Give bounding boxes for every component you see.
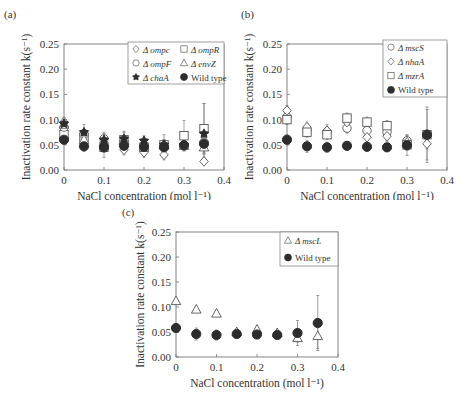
y-tick-label: 0.20 xyxy=(263,63,283,75)
y-tick-label: 0.00 xyxy=(40,164,60,176)
data-marker xyxy=(313,318,322,327)
data-marker xyxy=(422,130,431,139)
data-marker xyxy=(199,139,208,148)
data-marker xyxy=(302,142,311,151)
y-tick-label: 0.05 xyxy=(40,139,60,151)
y-axis-label: Inactivation rate constant k(s⁻¹) xyxy=(134,221,147,368)
y-tick-label: 0.05 xyxy=(152,326,172,338)
panel-label: (c) xyxy=(122,206,135,219)
panel-c: (c)0.000.050.100.150.200.2500.10.20.30.4… xyxy=(120,200,360,406)
legend-label: Wild type xyxy=(398,85,433,95)
y-axis-label: Inactivation rate constant k(s⁻¹) xyxy=(20,34,33,181)
data-points xyxy=(171,296,322,351)
x-tick-label: 0.3 xyxy=(400,174,414,186)
data-marker xyxy=(283,115,291,123)
legend-label: Δ envZ xyxy=(190,59,217,69)
data-marker xyxy=(180,132,188,140)
chart-panel-c: (c)0.000.050.100.150.200.2500.10.20.30.4… xyxy=(120,200,360,406)
data-marker xyxy=(382,143,391,152)
data-marker xyxy=(303,128,311,136)
y-tick-label: 0.00 xyxy=(263,164,283,176)
x-tick-label: 0.1 xyxy=(320,174,334,186)
legend-label: Δ mzrA xyxy=(397,71,425,81)
legend: Δ mscSΔ nhaAΔ mzrAWild type xyxy=(383,40,447,97)
legend-label: Δ chaA xyxy=(142,73,169,83)
data-marker xyxy=(192,329,201,338)
data-marker xyxy=(313,331,323,340)
y-tick-label: 0.20 xyxy=(40,63,60,75)
data-marker xyxy=(79,142,88,151)
panel-b: (b)0.000.050.100.150.200.2500.10.20.30.4… xyxy=(237,0,474,200)
x-tick-label: 0.1 xyxy=(210,361,224,373)
y-tick-label: 0.10 xyxy=(40,114,60,126)
legend-label: Δ ompF xyxy=(142,59,172,69)
y-axis-label: Inactivation rate constant k(s⁻¹) xyxy=(243,34,256,181)
panel-a: (a)0.000.050.100.150.200.2500.10.20.30.4… xyxy=(0,0,237,200)
y-tick-label: 0.20 xyxy=(152,251,172,263)
data-marker xyxy=(293,328,302,337)
y-tick-label: 0.15 xyxy=(152,276,172,288)
y-tick-label: 0.00 xyxy=(152,351,172,363)
data-marker xyxy=(322,143,331,152)
panel-label: (b) xyxy=(241,8,254,21)
data-marker xyxy=(383,121,391,129)
legend: Δ ompcΔ ompRΔ ompFΔ envZΔ chaAWild type xyxy=(128,42,226,84)
y-tick-label: 0.15 xyxy=(263,88,283,100)
chart-panel-a: (a)0.000.050.100.150.200.2500.10.20.30.4… xyxy=(0,0,237,200)
x-axis-label: NaCl concentration (mol l⁻¹) xyxy=(190,377,324,390)
y-tick-label: 0.25 xyxy=(263,38,283,50)
legend-label: Wild type xyxy=(295,253,330,263)
y-tick-label: 0.25 xyxy=(152,226,172,238)
data-marker xyxy=(171,296,181,305)
data-marker xyxy=(200,157,208,167)
y-tick-label: 0.25 xyxy=(40,38,60,50)
x-tick-label: 0 xyxy=(61,174,67,186)
legend-label: Δ ompc xyxy=(142,45,170,55)
data-marker xyxy=(119,141,128,150)
x-tick-label: 0.2 xyxy=(360,174,374,186)
legend-label: Wild type xyxy=(191,73,226,83)
legend-marker-icon xyxy=(181,46,187,52)
data-marker xyxy=(363,118,371,126)
data-marker xyxy=(362,142,371,151)
data-marker xyxy=(342,141,351,150)
x-tick-label: 0.1 xyxy=(97,174,111,186)
legend-marker-icon xyxy=(181,74,188,81)
x-tick-label: 0.4 xyxy=(331,361,345,373)
x-tick-label: 0.2 xyxy=(137,174,151,186)
legend-marker-icon xyxy=(133,60,139,66)
data-marker xyxy=(59,135,68,144)
x-tick-label: 0.4 xyxy=(217,174,231,186)
data-points xyxy=(282,105,431,162)
x-tick-label: 0.4 xyxy=(440,174,454,186)
x-tick-label: 0 xyxy=(284,174,290,186)
x-tick-label: 0 xyxy=(173,361,179,373)
data-marker xyxy=(423,139,431,149)
legend-marker-icon xyxy=(388,44,394,50)
data-marker xyxy=(212,330,221,339)
legend-marker-icon xyxy=(388,86,395,93)
y-tick-label: 0.10 xyxy=(152,301,172,313)
x-tick-label: 0.3 xyxy=(177,174,191,186)
y-tick-label: 0.15 xyxy=(40,88,60,100)
data-marker xyxy=(139,142,148,151)
data-marker xyxy=(273,330,282,339)
legend-label: Δ nhaA xyxy=(397,57,425,67)
y-tick-label: 0.10 xyxy=(263,114,283,126)
chart-panel-b: (b)0.000.050.100.150.200.2500.10.20.30.4… xyxy=(237,0,474,200)
data-marker xyxy=(252,330,261,339)
data-marker xyxy=(282,135,291,144)
legend-marker-icon xyxy=(285,254,292,261)
data-marker xyxy=(99,143,108,152)
y-tick-label: 0.05 xyxy=(263,139,283,151)
data-marker xyxy=(232,329,241,338)
data-marker xyxy=(343,114,351,122)
data-marker xyxy=(171,323,180,332)
data-marker xyxy=(402,141,411,150)
legend-label: Δ mscS xyxy=(397,43,424,53)
x-axis-label: NaCl concentration (mol l⁻¹) xyxy=(77,190,211,200)
panel-label: (a) xyxy=(4,8,17,21)
legend: Δ mscLWild type xyxy=(280,232,338,266)
legend-label: Δ ompR xyxy=(190,45,220,55)
legend-marker-icon xyxy=(388,72,394,78)
